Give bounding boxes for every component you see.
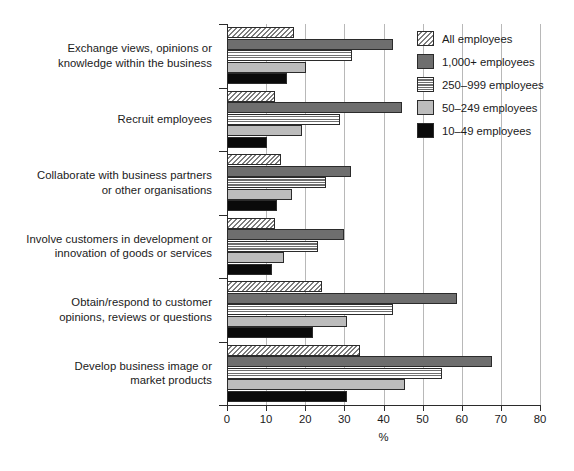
- category-label: Exchange views, opinions orknowledge wit…: [0, 41, 212, 70]
- legend-swatch-icon: [417, 54, 434, 69]
- category-label: Recruit employees: [0, 112, 212, 127]
- y-axis-tick: [219, 215, 227, 216]
- bar: [227, 62, 306, 73]
- x-axis-tick: [384, 405, 385, 411]
- x-axis-tick-label: 40: [364, 413, 404, 425]
- category-label: Involve customers in development orinnov…: [0, 232, 212, 261]
- bar: [227, 27, 294, 38]
- category-label-line: opinions, reviews or questions: [0, 310, 212, 325]
- bar: [227, 368, 442, 379]
- legend-item-label: 50–249 employees: [442, 102, 537, 114]
- bar: [227, 73, 287, 84]
- bar: [227, 327, 313, 338]
- legend-item-250-999-employees[interactable]: 250–999 employees: [417, 73, 572, 96]
- category-axis-labels: Exchange views, opinions orknowledge wit…: [0, 24, 220, 405]
- x-axis-tick-label: 0: [207, 413, 247, 425]
- x-axis-tick-label: 60: [442, 413, 482, 425]
- bar: [227, 304, 393, 315]
- legend-item-label: 10–49 employees: [442, 125, 531, 137]
- legend-swatch-icon: [417, 77, 434, 92]
- x-axis-tick-label: 30: [324, 413, 364, 425]
- category-label-line: Develop business image or: [0, 359, 212, 374]
- bar: [227, 200, 277, 211]
- x-axis-tick-label: 80: [520, 413, 560, 425]
- category-label-line: Exchange views, opinions or: [0, 41, 212, 56]
- x-axis-tick: [227, 405, 228, 411]
- category-label: Obtain/respond to customeropinions, revi…: [0, 295, 212, 324]
- legend-swatch-icon: [417, 100, 434, 115]
- bar: [227, 166, 351, 177]
- category-label-line: or other organisations: [0, 183, 212, 198]
- bar: [227, 229, 344, 240]
- x-axis-tick: [305, 405, 306, 411]
- x-axis-tick: [501, 405, 502, 411]
- category-label: Develop business image ormarket products: [0, 359, 212, 388]
- bar: [227, 189, 292, 200]
- bar: [227, 356, 492, 367]
- x-axis-tick-label: 50: [403, 413, 443, 425]
- x-axis-tick-label: 20: [285, 413, 325, 425]
- y-axis-tick: [219, 278, 227, 279]
- x-axis-tick: [462, 405, 463, 411]
- gridline: [384, 24, 385, 405]
- bar: [227, 102, 402, 113]
- bar: [227, 293, 457, 304]
- legend-swatch-icon: [417, 123, 434, 138]
- legend-swatch-icon: [417, 31, 434, 46]
- x-axis-tick: [344, 405, 345, 411]
- bar: [227, 252, 284, 263]
- x-axis-tick-label: 10: [246, 413, 286, 425]
- bar: [227, 125, 302, 136]
- y-axis-tick: [219, 151, 227, 152]
- x-axis-tick: [540, 405, 541, 411]
- category-label: Collaborate with business partnersor oth…: [0, 168, 212, 197]
- legend-item-label: 1,000+ employees: [442, 56, 535, 68]
- bar: [227, 241, 318, 252]
- bar: [227, 316, 347, 327]
- category-label-line: innovation of goods or services: [0, 246, 212, 261]
- bar: [227, 379, 405, 390]
- category-label-line: Involve customers in development or: [0, 232, 212, 247]
- bar: [227, 91, 275, 102]
- y-axis-tick: [219, 342, 227, 343]
- legend-item-all-employees[interactable]: All employees: [417, 27, 572, 50]
- x-axis-tick-label: 70: [481, 413, 521, 425]
- legend-item-50-249-employees[interactable]: 50–249 employees: [417, 96, 572, 119]
- legend-item-label: 250–999 employees: [442, 79, 544, 91]
- bar: [227, 264, 272, 275]
- legend-item-1000-plus-employees[interactable]: 1,000+ employees: [417, 50, 572, 73]
- x-axis-tick: [423, 405, 424, 411]
- bar: [227, 137, 267, 148]
- legend-item-label: All employees: [442, 33, 512, 45]
- bar: [227, 281, 322, 292]
- x-axis-title: %: [364, 431, 404, 443]
- legend-item-10-49-employees[interactable]: 10–49 employees: [417, 119, 572, 142]
- category-label-line: market products: [0, 373, 212, 388]
- y-axis-tick: [219, 88, 227, 89]
- y-axis-tick: [219, 24, 227, 25]
- bar: [227, 154, 281, 165]
- bar: [227, 391, 347, 402]
- y-axis-tick: [219, 405, 227, 406]
- category-label-line: Collaborate with business partners: [0, 168, 212, 183]
- bar: [227, 345, 360, 356]
- x-axis-tick: [266, 405, 267, 411]
- category-label-line: Obtain/respond to customer: [0, 295, 212, 310]
- bar: [227, 177, 326, 188]
- bar: [227, 39, 393, 50]
- bar: [227, 218, 275, 229]
- legend: All employees 1,000+ employees 250–999 e…: [417, 27, 572, 142]
- bar: [227, 50, 352, 61]
- bar: [227, 114, 340, 125]
- bar-chart: Exchange views, opinions orknowledge wit…: [0, 0, 574, 471]
- category-label-line: Recruit employees: [0, 112, 212, 127]
- category-label-line: knowledge within the business: [0, 56, 212, 71]
